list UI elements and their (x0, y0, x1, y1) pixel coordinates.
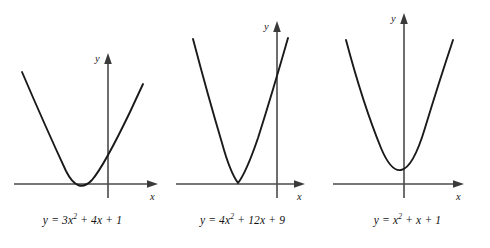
equation-rest-1: + 4x + 1 (77, 214, 122, 226)
x-axis-2 (176, 180, 305, 188)
parabola-curve-3 (346, 40, 453, 170)
x-axis-label-2: x (296, 191, 302, 202)
y-axis-label-1: y (94, 53, 100, 64)
y-axis-label-3: y (390, 13, 396, 24)
equation-lhs-1: y = 3 (43, 214, 68, 226)
parabola-panel-1: y x y = 3x2 + 4x + 1 (0, 0, 165, 248)
x-axis-label-1: x (149, 191, 155, 202)
y-axis-1 (104, 53, 112, 198)
x-axis-3 (333, 180, 464, 188)
parabola-curve-2 (193, 38, 288, 183)
parabola-panel-3: y x y = x2 + x + 1 (325, 0, 490, 248)
plot-area-1: y x (0, 0, 165, 210)
plot-area-3: y x (325, 0, 490, 210)
plot-area-2: y x (160, 0, 325, 210)
parabola-curve-1 (22, 72, 143, 186)
equation-rest-3: + x + 1 (402, 214, 441, 226)
equation-lhs-2: y = 4 (200, 214, 225, 226)
equation-lhs-3: y = (374, 214, 393, 226)
equation-caption-3: y = x2 + x + 1 (325, 214, 490, 226)
x-axis-label-3: x (455, 191, 461, 202)
equation-caption-1: y = 3x2 + 4x + 1 (0, 214, 165, 226)
parabola-panel-2: y x y = 4x2 + 12x + 9 (160, 0, 325, 248)
parabola-figure-row: y x y = 3x2 + 4x + 1 y x (0, 0, 490, 248)
equation-rest-2: + 12x + 9 (234, 214, 285, 226)
y-axis-2 (273, 21, 281, 198)
equation-caption-2: y = 4x2 + 12x + 9 (160, 214, 325, 226)
y-axis-label-2: y (263, 21, 269, 32)
